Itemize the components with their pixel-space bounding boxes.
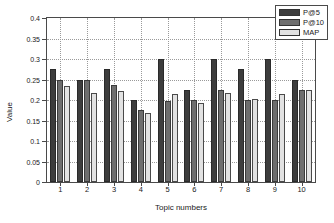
legend-swatch-icon <box>279 29 300 36</box>
bar-pat5-topic-8 <box>238 69 244 182</box>
x-axis-tick-label: 10 <box>297 186 305 194</box>
bar-pat10-topic-2 <box>84 80 90 182</box>
y-axis-tick-label: 0 <box>36 179 40 186</box>
bar-pat10-topic-4 <box>138 110 144 182</box>
bar-pat10-topic-7 <box>218 90 224 182</box>
y-axis-tick <box>42 80 47 81</box>
y-axis-tick <box>42 182 47 183</box>
bar-pat10-topic-3 <box>111 85 117 182</box>
legend-label: P@5 <box>303 9 320 17</box>
bar-pat10-topic-1 <box>57 80 63 182</box>
bar-map-topic-3 <box>118 91 124 182</box>
y-axis-tick-label: 0.15 <box>26 117 40 124</box>
bar-pat10-topic-6 <box>191 100 197 182</box>
y-axis-tick <box>42 162 47 163</box>
legend-item-pat5: P@5 <box>279 8 324 17</box>
bar-pat5-topic-2 <box>77 80 83 182</box>
bar-map-topic-2 <box>91 93 97 182</box>
bar-pat10-topic-8 <box>245 100 251 182</box>
bar-map-topic-9 <box>279 94 285 182</box>
legend-item-pat10: P@10 <box>279 18 324 27</box>
y-axis-tick-label: 0.4 <box>30 15 40 22</box>
y-axis-tick-label: 0.25 <box>26 76 40 83</box>
x-axis-label: Topic numbers <box>46 203 316 212</box>
bar-map-topic-5 <box>172 94 178 182</box>
legend-item-map: MAP <box>279 28 324 37</box>
plot-area: 00.050.10.150.20.250.30.350.412345678910 <box>46 17 316 183</box>
x-axis-tick-label: 9 <box>273 186 277 194</box>
x-axis-tick-label: 5 <box>166 186 170 194</box>
bar-map-topic-8 <box>252 99 258 182</box>
y-axis-tick <box>42 100 47 101</box>
bar-map-topic-1 <box>64 86 70 182</box>
y-axis-tick-label: 0.3 <box>30 56 40 63</box>
bar-map-topic-6 <box>198 103 204 182</box>
bar-pat5-topic-9 <box>265 59 271 182</box>
bar-map-topic-7 <box>225 93 231 182</box>
bar-pat10-topic-5 <box>165 101 171 182</box>
bar-pat5-topic-3 <box>104 69 110 182</box>
x-axis-tick-label: 7 <box>219 186 223 194</box>
chart-legend: P@5P@10MAP <box>275 5 328 40</box>
bar-pat5-topic-7 <box>211 59 217 182</box>
bar-pat5-topic-4 <box>131 100 137 182</box>
y-axis-label: Value <box>5 102 14 122</box>
x-axis-tick-label: 1 <box>58 186 62 194</box>
bar-pat5-topic-1 <box>50 69 56 182</box>
y-axis-tick-label: 0.2 <box>30 97 40 104</box>
y-axis-tick <box>42 39 47 40</box>
y-axis-tick-label: 0.05 <box>26 158 40 165</box>
y-axis-tick <box>42 141 47 142</box>
y-axis-tick <box>42 121 47 122</box>
bar-series-container <box>47 18 315 182</box>
y-axis-tick-label: 0.35 <box>26 35 40 42</box>
bar-map-topic-10 <box>306 90 312 182</box>
legend-label: MAP <box>303 29 319 37</box>
y-axis-tick <box>42 59 47 60</box>
legend-swatch-icon <box>279 9 300 16</box>
bar-pat10-topic-9 <box>272 100 278 182</box>
legend-swatch-icon <box>279 19 300 26</box>
bar-pat10-topic-10 <box>299 90 305 182</box>
x-axis-tick-label: 4 <box>139 186 143 194</box>
y-axis-tick <box>42 18 47 19</box>
x-axis-tick-label: 3 <box>112 186 116 194</box>
bar-map-topic-4 <box>145 113 151 182</box>
bar-pat5-topic-10 <box>292 80 298 182</box>
bar-pat5-topic-5 <box>158 59 164 182</box>
x-axis-tick-label: 2 <box>85 186 89 194</box>
legend-label: P@10 <box>303 19 324 27</box>
bar-chart-figure: Value Topic numbers 00.050.10.150.20.250… <box>0 0 334 223</box>
x-axis-tick-label: 8 <box>246 186 250 194</box>
bar-pat5-topic-6 <box>184 90 190 182</box>
x-axis-tick-label: 6 <box>192 186 196 194</box>
y-axis-tick-label: 0.1 <box>30 138 40 145</box>
